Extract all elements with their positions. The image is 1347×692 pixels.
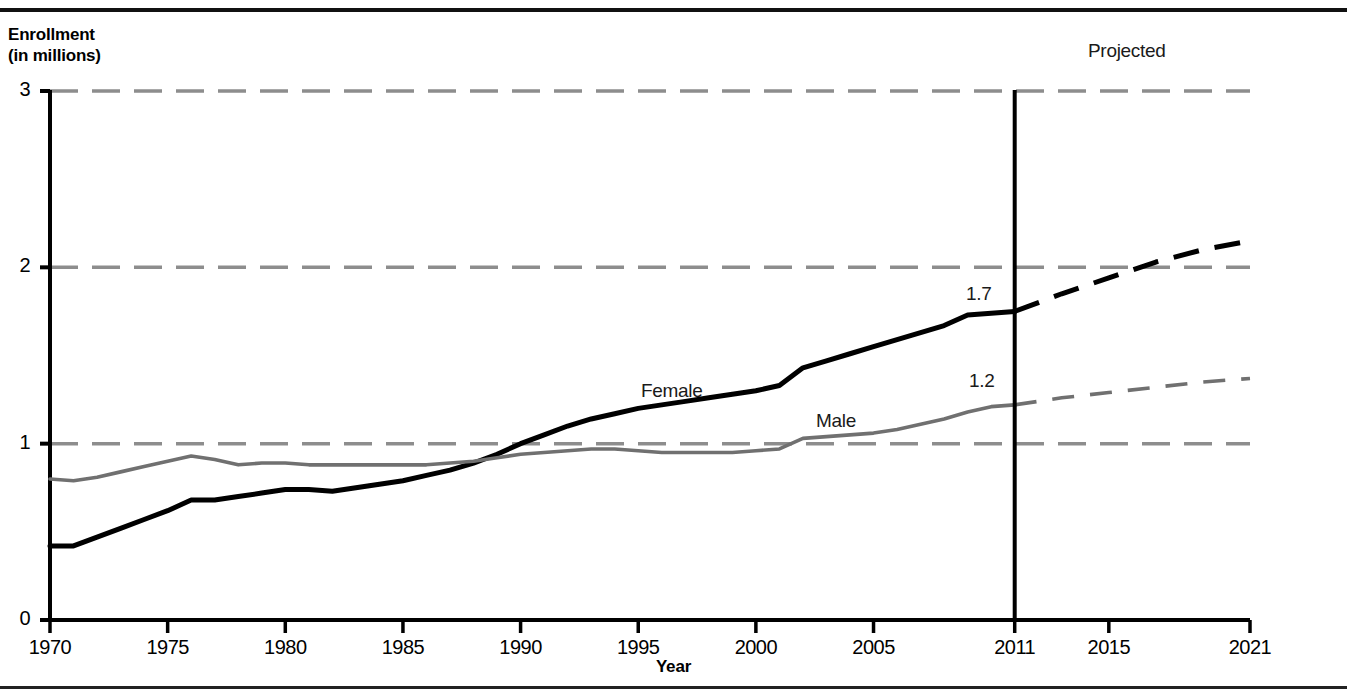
x-tick-label: 1975 <box>128 636 208 659</box>
x-tick-label: 2005 <box>834 636 914 659</box>
y-tick-label: 1 <box>4 431 30 454</box>
x-tick-label: 2000 <box>716 636 796 659</box>
x-tick-label: 2015 <box>1069 636 1149 659</box>
x-tick-label: 1985 <box>363 636 443 659</box>
chart-page: Enrollment (in millions) Year Projected … <box>0 0 1347 692</box>
x-tick-label: 1970 <box>10 636 90 659</box>
line-chart-svg <box>0 0 1347 692</box>
axis-lines <box>48 90 1250 620</box>
y-tick-label: 2 <box>4 254 30 277</box>
gridlines <box>50 91 1250 444</box>
y-tick-label: 0 <box>4 607 30 630</box>
x-tick-label: 2011 <box>975 636 1055 659</box>
x-tick-label: 1995 <box>598 636 678 659</box>
y-tick-label: 3 <box>4 78 30 101</box>
tick-marks <box>40 91 1250 633</box>
x-tick-label: 2021 <box>1210 636 1290 659</box>
x-tick-label: 1990 <box>481 636 561 659</box>
x-tick-label: 1980 <box>245 636 325 659</box>
series-paths <box>50 241 1250 546</box>
